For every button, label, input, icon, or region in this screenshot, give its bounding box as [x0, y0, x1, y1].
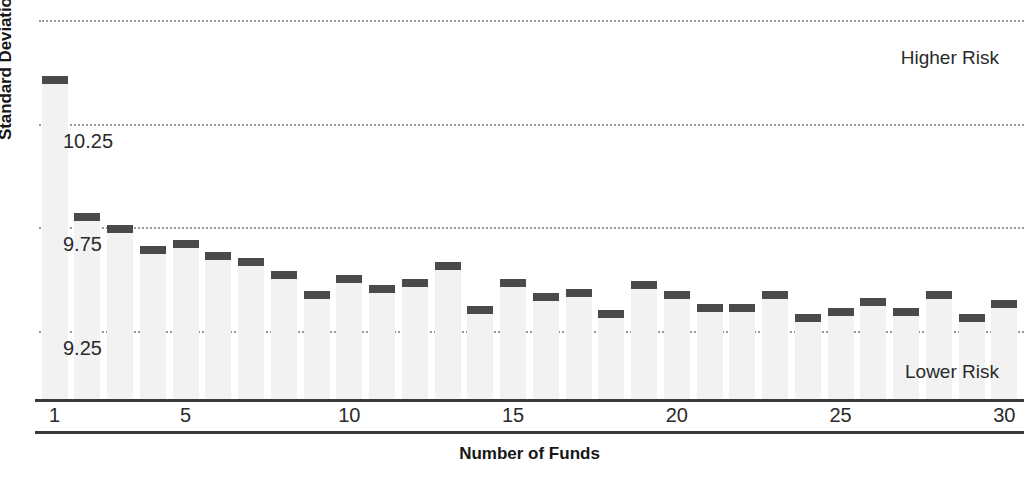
annotation-higher-risk: Higher Risk [901, 48, 999, 67]
x-tick-label: 1 [49, 405, 60, 425]
y-axis-title: Standard Deviation [0, 0, 16, 140]
bar-cap [402, 279, 428, 287]
x-tick-label: 25 [829, 405, 851, 425]
bar-cap [926, 291, 952, 299]
x-tick-label-layer: 151015202530 [35, 402, 1024, 431]
bar-cap [566, 289, 592, 297]
bar-cap [762, 291, 788, 299]
bar-cap [729, 304, 755, 312]
bar-cap [893, 308, 919, 316]
bar [762, 291, 788, 399]
bar-cap [500, 279, 526, 287]
x-tick-label: 5 [180, 405, 191, 425]
bar [533, 293, 559, 399]
bar [664, 291, 690, 399]
bar [631, 281, 657, 399]
y-tick-label: 9.25 [63, 338, 102, 358]
bar [893, 308, 919, 399]
bar-cap [664, 291, 690, 299]
bar [304, 291, 330, 399]
bar [336, 275, 362, 399]
bars-layer [35, 10, 1024, 399]
bar [173, 240, 199, 399]
bar [795, 314, 821, 399]
y-tick-label: 9.75 [63, 234, 102, 254]
bar-cap [238, 258, 264, 266]
bar [238, 258, 264, 399]
bar-cap [795, 314, 821, 322]
bar [991, 300, 1017, 399]
bar-cap [467, 306, 493, 314]
bar [107, 225, 133, 399]
bar [860, 298, 886, 399]
annotation-lower-risk: Lower Risk [905, 362, 999, 381]
bar-cap [828, 308, 854, 316]
bar-cap [435, 262, 461, 270]
bar-cap [173, 240, 199, 248]
x-tick-label: 15 [502, 405, 524, 425]
bar-cap [598, 310, 624, 318]
bar [959, 314, 985, 399]
bar [467, 306, 493, 399]
y-tick-label: 10.25 [63, 131, 113, 151]
bar-cap [107, 225, 133, 233]
x-tick-label: 30 [993, 405, 1015, 425]
bar-cap [697, 304, 723, 312]
bar-cap [140, 246, 166, 254]
bar [598, 310, 624, 399]
bar-cap [631, 281, 657, 289]
x-axis-rule-bottom [35, 431, 1024, 434]
bar [205, 252, 231, 399]
bar-cap [991, 300, 1017, 308]
x-axis-block: 151015202530 [35, 399, 1024, 434]
bar-cap [336, 275, 362, 283]
bar-cap [533, 293, 559, 301]
bar [697, 304, 723, 399]
bar-cap [304, 291, 330, 299]
x-tick-label: 10 [338, 405, 360, 425]
bar [729, 304, 755, 399]
bar-cap [959, 314, 985, 322]
bar-cap [369, 285, 395, 293]
bar [926, 291, 952, 399]
bar-cap [860, 298, 886, 306]
bar-cap [74, 213, 100, 221]
x-tick-label: 20 [666, 405, 688, 425]
bar [500, 279, 526, 399]
bar [566, 289, 592, 399]
bar [369, 285, 395, 399]
bar-cap [42, 76, 68, 84]
bar [140, 246, 166, 399]
bar-cap [271, 271, 297, 279]
bar-cap [205, 252, 231, 260]
bar [435, 262, 461, 399]
bar [402, 279, 428, 399]
plot-area: 10.259.759.25 Higher Risk Lower Risk [35, 10, 1024, 399]
bar [271, 271, 297, 399]
chart-root: Standard Deviation 10.259.759.25 Higher … [0, 0, 1024, 485]
bar [828, 308, 854, 399]
x-axis-title: Number of Funds [35, 444, 1024, 464]
